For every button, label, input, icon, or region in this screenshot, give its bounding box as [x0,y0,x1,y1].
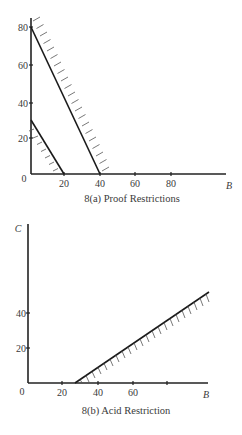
x-tick-label: 20 [59,178,69,189]
y-tick-label: 20 [18,133,28,144]
hatch-marks-2 [29,129,58,171]
x-tick-label: 60 [128,387,138,398]
y-tick-label: 80 [18,22,28,33]
hatch-marks-acid [80,294,209,384]
x-tick-label: 80 [166,178,176,189]
x-tick-label: 20 [57,387,67,398]
y-tick-label: 20 [16,343,26,354]
constraint-line-acid [75,292,209,383]
hatch-marks-1 [33,17,109,171]
x-tick-label: 60 [130,178,140,189]
figure-canvas: 80 60 40 20 0 20 40 60 80 B [0,0,242,435]
x-tick-label: 40 [95,178,105,189]
constraint-line-1 [31,27,100,174]
y-tick-label: 40 [18,98,28,109]
origin-label: 0 [20,386,25,397]
plot-8b: C 40 20 0 20 40 60 B [15,223,209,417]
y-tick-label: 40 [16,308,26,319]
x-tick-label: 40 [93,387,103,398]
caption-8b: 8(b) Acid Restriction [82,405,171,417]
x-axis-label: B [226,180,232,191]
x-axis-label: B [203,389,209,400]
y-axis-label: C [15,223,22,234]
origin-label: 0 [22,173,27,184]
caption-8a: 8(a) Proof Restrictions [84,193,180,205]
y-tick-label: 60 [18,60,28,71]
plot-8a: 80 60 40 20 0 20 40 60 80 B [18,17,232,205]
constraint-line-2 [31,120,64,174]
